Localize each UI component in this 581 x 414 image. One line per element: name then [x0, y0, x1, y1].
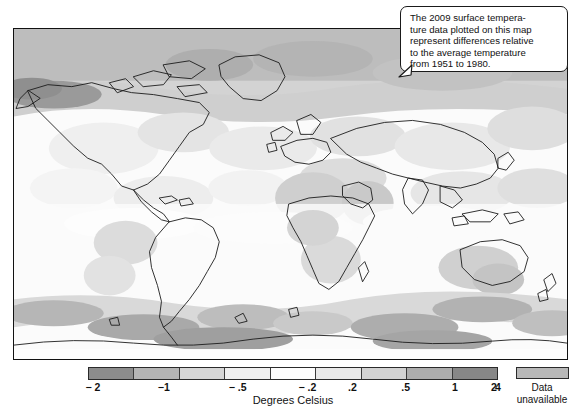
legend-tick-4: .2	[348, 381, 357, 393]
legend-tick-labels: − 2−1− .5− .2.2.5124	[88, 381, 498, 395]
legend: − 2−1− .5− .2.2.5124 Degrees Celsius Dat…	[0, 362, 581, 414]
world-map-figure	[13, 28, 568, 360]
legend-color-bar	[88, 367, 498, 380]
legend-tick-6: 1	[452, 381, 458, 393]
legend-swatch-band-02-05	[316, 368, 361, 379]
legend-tick-2: − .5	[229, 381, 247, 393]
data-unavailable-key: Data unavailable	[509, 366, 575, 405]
legend-swatch-band-minus05-minus02	[225, 368, 270, 379]
legend-tick-1: −1	[158, 381, 170, 393]
legend-swatch-band-1-2	[407, 368, 452, 379]
legend-swatch-band-minus02-02	[271, 368, 316, 379]
legend-swatch-band-lt-minus2	[89, 368, 134, 379]
legend-swatch-band-05-1	[362, 368, 407, 379]
legend-tick-3: − .2	[298, 381, 316, 393]
legend-tick-0: − 2	[85, 381, 100, 393]
legend-tick-5: .5	[401, 381, 410, 393]
map-canvas	[14, 29, 567, 359]
callout-tail-icon	[398, 64, 414, 78]
callout-text: The 2009 surface tempera- ture data plot…	[410, 12, 560, 70]
legend-swatch-band-minus1-minus05	[180, 368, 225, 379]
legend-tick-8: 4	[495, 381, 501, 393]
map-callout-note: The 2009 surface tempera- ture data plot…	[400, 6, 568, 72]
legend-axis-title: Degrees Celsius	[88, 394, 498, 406]
data-unavailable-label: Data unavailable	[509, 382, 575, 405]
anomaly-shading	[14, 29, 567, 359]
data-unavailable-swatch	[516, 367, 569, 379]
legend-swatch-band-minus2-minus1	[134, 368, 179, 379]
legend-swatch-band-2-4	[453, 368, 497, 379]
